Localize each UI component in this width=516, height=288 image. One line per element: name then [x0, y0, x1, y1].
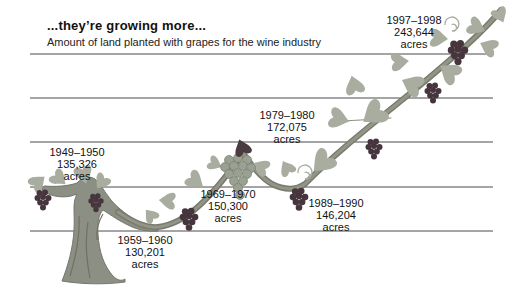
acres-value: 243,644	[369, 26, 459, 38]
period-label: 1997–1998	[369, 14, 459, 26]
unit-label: acres	[100, 258, 190, 270]
period-label: 1949–1950	[32, 146, 122, 158]
period-label: 1989–1990	[291, 197, 381, 209]
unit-label: acres	[32, 170, 122, 182]
data-label-1949-1950: 1949–1950 135,326 acres	[32, 146, 122, 182]
unit-label: acres	[291, 221, 381, 233]
vine-growth-chart: ...they’re growing more... Amount of lan…	[0, 0, 516, 288]
unit-label: acres	[369, 38, 459, 50]
acres-value: 135,326	[32, 158, 122, 170]
unit-label: acres	[183, 212, 273, 224]
data-label-1969-1970: 1969–1970 150,300 acres	[183, 188, 273, 224]
unit-label: acres	[242, 133, 332, 145]
data-label-1959-1960: 1959–1960 130,201 acres	[100, 234, 190, 270]
acres-value: 172,075	[242, 121, 332, 133]
period-label: 1959–1960	[100, 234, 190, 246]
acres-value: 146,204	[291, 209, 381, 221]
period-label: 1979–1980	[242, 109, 332, 121]
period-label: 1969–1970	[183, 188, 273, 200]
acres-value: 130,201	[100, 246, 190, 258]
data-label-1979-1980: 1979–1980 172,075 acres	[242, 109, 332, 145]
data-label-1997-1998: 1997–1998 243,644 acres	[369, 14, 459, 50]
chart-title: ...they’re growing more...	[47, 18, 206, 33]
chart-subtitle: Amount of land planted with grapes for t…	[47, 36, 321, 48]
data-label-1989-1990: 1989–1990 146,204 acres	[291, 197, 381, 233]
acres-value: 150,300	[183, 200, 273, 212]
